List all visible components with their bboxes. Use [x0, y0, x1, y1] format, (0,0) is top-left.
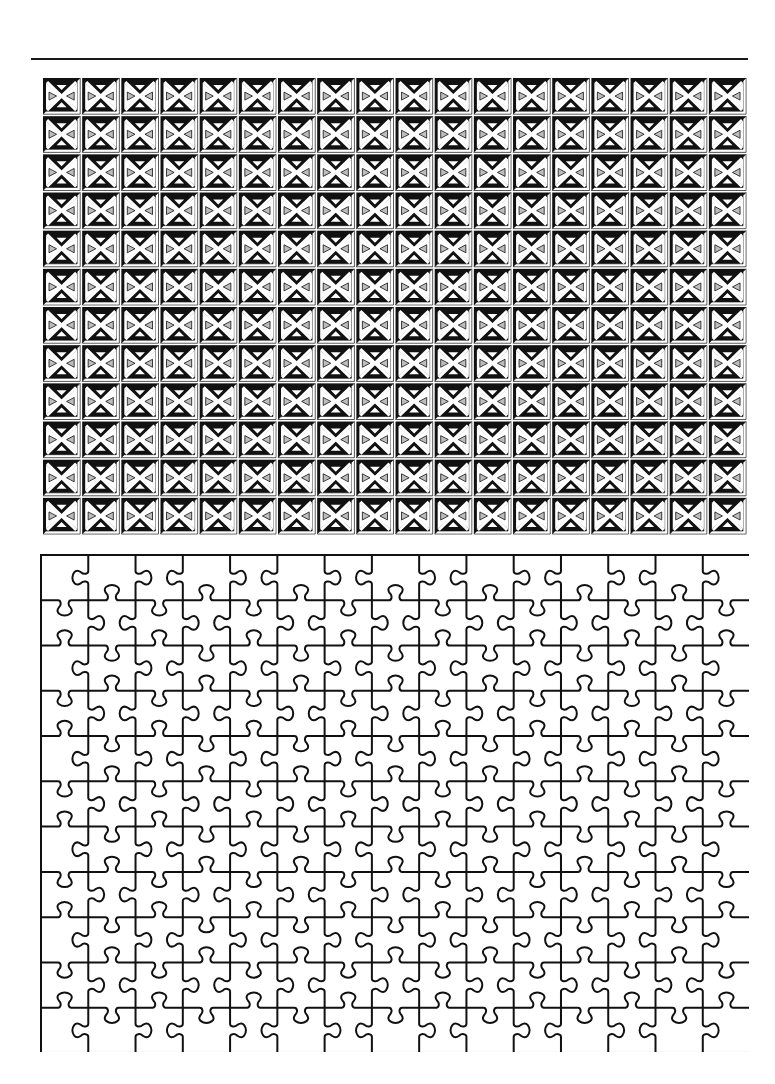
top-divider-line: [31, 58, 748, 60]
jigsaw-puzzle-svg: [40, 554, 749, 1052]
tile-pattern-grid: [43, 78, 748, 536]
jigsaw-puzzle-board: [40, 554, 749, 1052]
puzzle-border: [41, 555, 749, 1052]
tile-pattern-svg: [43, 78, 748, 536]
